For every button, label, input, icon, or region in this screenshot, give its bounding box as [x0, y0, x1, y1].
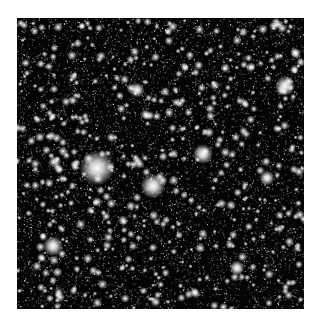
star-field-canvas [17, 18, 304, 309]
star-field-image [17, 18, 304, 309]
